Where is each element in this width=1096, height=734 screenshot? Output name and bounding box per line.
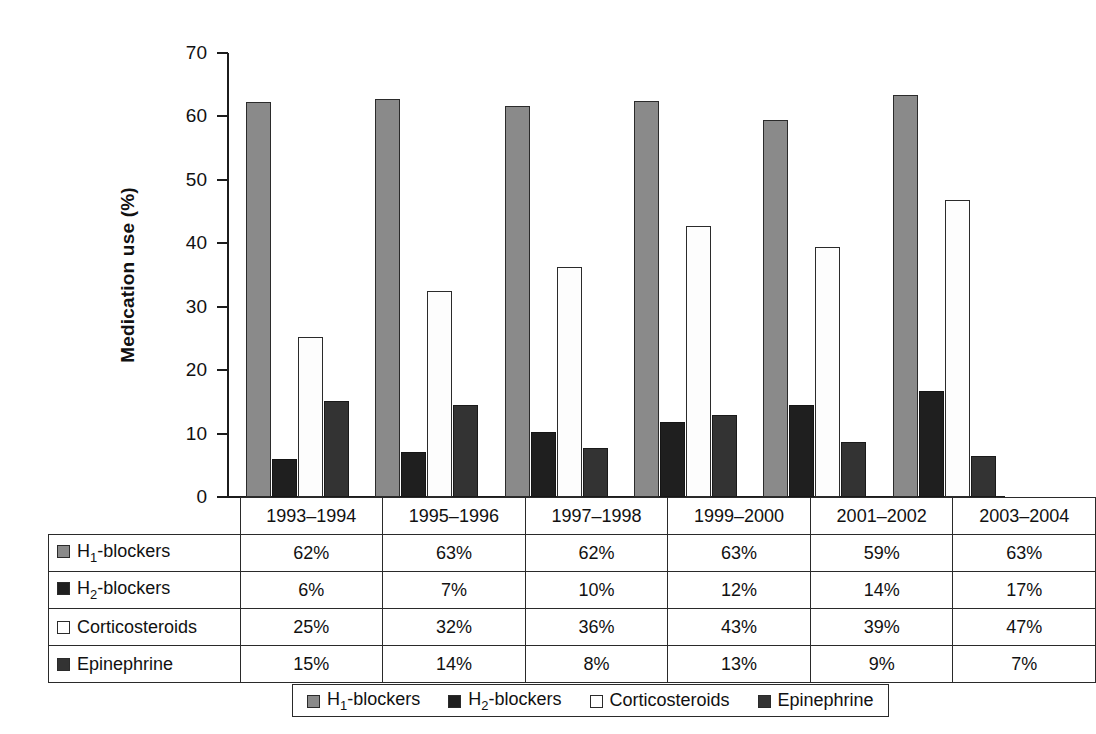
y-tick-mark xyxy=(217,433,228,435)
data-table: 1993–19941995–19961997–19981999–20002001… xyxy=(48,497,1096,683)
bar-group xyxy=(229,53,358,497)
table-column-header-4: 1999–2000 xyxy=(668,498,811,535)
table-cell: 62% xyxy=(525,535,668,572)
bar-ep-1995–1996 xyxy=(453,405,478,497)
bar-group xyxy=(876,53,1005,497)
legend-label: H1-blockers xyxy=(327,689,420,713)
legend-swatch-icon xyxy=(758,695,771,708)
legend-label: Corticosteroids xyxy=(610,690,730,711)
series-name-label: H2-blockers xyxy=(77,578,170,598)
legend-item: H1-blockers xyxy=(307,689,420,713)
bar-h1-2003–2004 xyxy=(893,95,918,497)
legend-label: H2-blockers xyxy=(468,689,561,713)
table-cell: 14% xyxy=(383,646,526,683)
y-tick-label: 50 xyxy=(155,169,207,191)
table-cell: 63% xyxy=(953,535,1096,572)
bar-h2-2003–2004 xyxy=(919,391,944,497)
table-column-header-5: 2001–2002 xyxy=(810,498,953,535)
y-tick-mark xyxy=(217,179,228,181)
table-cell: 10% xyxy=(525,572,668,609)
bar-cs-1999–2000 xyxy=(686,226,711,497)
legend-item: H2-blockers xyxy=(448,689,561,713)
legend-item: Epinephrine xyxy=(758,690,874,711)
table-row-header: Corticosteroids xyxy=(49,609,241,646)
table-row-header: Epinephrine xyxy=(49,646,241,683)
table-row-header: H2-blockers xyxy=(49,572,241,609)
table-cell: 6% xyxy=(240,572,383,609)
bar-h1-1993–1994 xyxy=(246,102,271,497)
y-tick-mark xyxy=(217,242,228,244)
bar-plot-area xyxy=(229,53,1005,497)
series-name-label: Epinephrine xyxy=(77,654,173,674)
bar-group xyxy=(617,53,746,497)
table-row-header: H1-blockers xyxy=(49,535,241,572)
legend: H1-blockersH2-blockersCorticosteroidsEpi… xyxy=(292,684,889,717)
table-column-header-6: 2003–2004 xyxy=(953,498,1096,535)
bar-h2-1999–2000 xyxy=(660,422,685,497)
bar-ep-1999–2000 xyxy=(712,415,737,497)
label-subscript: 1 xyxy=(340,697,347,712)
bar-ep-1993–1994 xyxy=(324,401,349,497)
table-cell: 43% xyxy=(668,609,811,646)
bar-cs-2001–2002 xyxy=(815,247,840,497)
bar-h1-1999–2000 xyxy=(634,101,659,497)
bar-h1-1997–1998 xyxy=(505,106,530,497)
table-cell: 12% xyxy=(668,572,811,609)
table-cell: 17% xyxy=(953,572,1096,609)
table-column-header-2: 1995–1996 xyxy=(383,498,526,535)
y-tick-label: 40 xyxy=(155,232,207,254)
legend-swatch-icon xyxy=(590,695,603,708)
label-subscript: 2 xyxy=(481,697,488,712)
series-swatch-icon xyxy=(57,621,70,634)
bar-h2-1993–1994 xyxy=(272,459,297,497)
bar-ep-2001–2002 xyxy=(841,442,866,497)
bar-cs-1995–1996 xyxy=(427,291,452,497)
table-cell: 62% xyxy=(240,535,383,572)
table-row: H1-blockers62%63%62%63%59%63% xyxy=(49,535,1096,572)
y-tick-mark xyxy=(217,369,228,371)
table-cell: 63% xyxy=(383,535,526,572)
legend-item: Corticosteroids xyxy=(590,690,730,711)
bar-group xyxy=(488,53,617,497)
bar-cs-1993–1994 xyxy=(298,337,323,497)
bar-cs-1997–1998 xyxy=(557,267,582,497)
table-corner-cell xyxy=(49,498,241,535)
table-cell: 32% xyxy=(383,609,526,646)
table-header-row: 1993–19941995–19961997–19981999–20002001… xyxy=(49,498,1096,535)
table-cell: 13% xyxy=(668,646,811,683)
y-tick-label: 70 xyxy=(155,42,207,64)
table-column-header-1: 1993–1994 xyxy=(240,498,383,535)
legend-swatch-icon xyxy=(307,695,320,708)
y-tick-label: 60 xyxy=(155,105,207,127)
legend-swatch-icon xyxy=(448,695,461,708)
bar-ep-1997–1998 xyxy=(583,448,608,497)
y-axis-title: Medication use (%) xyxy=(117,187,139,363)
table-cell: 14% xyxy=(810,572,953,609)
label-subscript: 2 xyxy=(90,587,97,602)
y-tick-label: 20 xyxy=(155,359,207,381)
bar-group xyxy=(358,53,487,497)
series-name-label: H1-blockers xyxy=(77,541,170,561)
bar-cs-2003–2004 xyxy=(945,200,970,497)
y-tick-mark xyxy=(217,115,228,117)
bar-ep-2003–2004 xyxy=(971,456,996,497)
table-cell: 39% xyxy=(810,609,953,646)
bar-h1-2001–2002 xyxy=(763,120,788,497)
y-tick-label: 30 xyxy=(155,296,207,318)
table-cell: 36% xyxy=(525,609,668,646)
table-row: Corticosteroids25%32%36%43%39%47% xyxy=(49,609,1096,646)
series-swatch-icon xyxy=(57,582,70,595)
table-cell: 25% xyxy=(240,609,383,646)
table-cell: 47% xyxy=(953,609,1096,646)
y-tick-label: 10 xyxy=(155,423,207,445)
table-cell: 7% xyxy=(383,572,526,609)
table-cell: 8% xyxy=(525,646,668,683)
table-cell: 9% xyxy=(810,646,953,683)
series-name-label: Corticosteroids xyxy=(77,617,197,637)
series-swatch-icon xyxy=(57,658,70,671)
legend-label: Epinephrine xyxy=(778,690,874,711)
table-row: H2-blockers6%7%10%12%14%17% xyxy=(49,572,1096,609)
table-row: Epinephrine15%14%8%13%9%7% xyxy=(49,646,1096,683)
table-cell: 15% xyxy=(240,646,383,683)
